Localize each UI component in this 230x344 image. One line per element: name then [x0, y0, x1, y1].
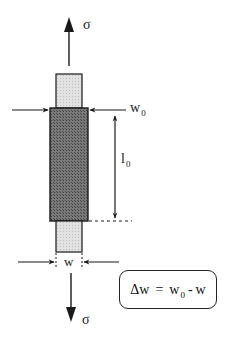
- formula-equals: =: [155, 282, 163, 298]
- formula-box: Δw = w0 - w: [119, 270, 217, 309]
- w-label: w: [64, 255, 73, 268]
- sigma-top-label: σ: [83, 18, 91, 32]
- formula-minus: -: [188, 282, 193, 298]
- sigma-bottom-label: σ: [82, 313, 90, 327]
- stress-arrow-bottom: [66, 273, 76, 322]
- formula-lhs: Δw: [130, 282, 149, 298]
- l0-label: l0: [121, 152, 130, 166]
- upper-grip: [56, 74, 82, 108]
- lower-grip: [56, 221, 82, 252]
- w0-label: w0: [130, 101, 146, 115]
- stress-arrow-top: [64, 17, 74, 66]
- gauge-section: [50, 108, 88, 221]
- formula-w: w: [196, 282, 206, 298]
- formula-w0: w0: [169, 282, 185, 298]
